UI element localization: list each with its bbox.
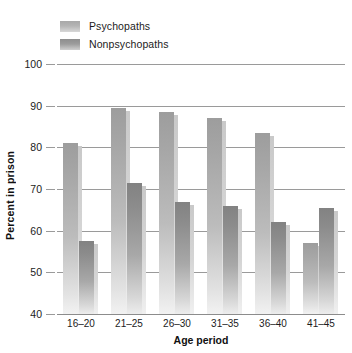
legend-item-psychopaths: Psychopaths — [60, 18, 169, 34]
legend-label-nonpsychopaths: Nonpsychopaths — [89, 38, 169, 50]
bar-psychopaths-36-40[interactable] — [255, 133, 270, 314]
x-tick-label-41-45: 41–45 — [307, 318, 335, 329]
bar-nonpsychopaths-26-30[interactable] — [175, 202, 190, 315]
bar-nonpsychopaths-21-25[interactable] — [127, 183, 142, 314]
bar-nonpsychopaths-36-40[interactable] — [271, 222, 286, 314]
y-tick-80 — [46, 147, 55, 148]
x-tick-label-21-25: 21–25 — [115, 318, 143, 329]
bar-psychopaths-21-25[interactable] — [111, 108, 126, 314]
bar-nonpsychopaths-16-20[interactable] — [79, 241, 94, 314]
legend-swatch-nonpsychopaths — [60, 39, 80, 50]
bar-nonpsychopaths-31-35[interactable] — [223, 206, 238, 314]
bar-shadow — [334, 211, 338, 314]
legend-swatch-psychopaths — [60, 21, 80, 32]
bar-shadow — [286, 225, 290, 314]
bar-psychopaths-31-35[interactable] — [207, 118, 222, 314]
bar-shadow — [142, 186, 146, 314]
bar-shadow — [190, 205, 194, 315]
bar-psychopaths-41-45[interactable] — [303, 243, 318, 314]
y-tick-label-50: 50 — [30, 266, 42, 278]
y-tick-50 — [46, 272, 55, 273]
y-tick-label-100: 100 — [24, 58, 42, 70]
plot-area: 405060708090100 — [57, 64, 345, 314]
y-tick-40 — [46, 314, 55, 315]
y-tick-label-80: 80 — [30, 141, 42, 153]
bar-psychopaths-16-20[interactable] — [63, 143, 78, 314]
chart-legend: Psychopaths Nonpsychopaths — [60, 18, 169, 54]
y-tick-label-40: 40 — [30, 308, 42, 320]
x-tick-label-26-30: 26–30 — [163, 318, 191, 329]
bar-shadow — [94, 244, 98, 314]
bar-shadow — [238, 209, 242, 314]
y-tick-label-70: 70 — [30, 183, 42, 195]
gridline-40 — [57, 314, 345, 315]
x-axis-title: Age period — [57, 334, 345, 346]
y-tick-70 — [46, 189, 55, 190]
bar-psychopaths-26-30[interactable] — [159, 112, 174, 314]
x-axis-tick-labels: 16–2021–2526–3031–3536–4041–45 — [57, 318, 345, 334]
x-tick-label-36-40: 36–40 — [259, 318, 287, 329]
bar-nonpsychopaths-41-45[interactable] — [319, 208, 334, 314]
legend-item-nonpsychopaths: Nonpsychopaths — [60, 36, 169, 52]
y-axis-title: Percent in prison — [2, 130, 18, 260]
bars-group — [57, 64, 345, 314]
y-tick-label-90: 90 — [30, 100, 42, 112]
y-tick-90 — [46, 106, 55, 107]
legend-label-psychopaths: Psychopaths — [89, 20, 150, 32]
x-tick-label-31-35: 31–35 — [211, 318, 239, 329]
x-tick-label-16-20: 16–20 — [67, 318, 95, 329]
y-tick-100 — [46, 64, 55, 65]
y-tick-60 — [46, 231, 55, 232]
y-tick-label-60: 60 — [30, 225, 42, 237]
